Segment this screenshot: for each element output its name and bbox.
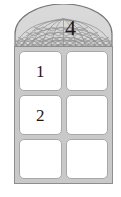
- window-frame: 1 2: [14, 46, 113, 184]
- pane-r1c1[interactable]: 1: [19, 51, 62, 91]
- pane-r3c1[interactable]: [19, 139, 62, 179]
- diagram-canvas: 4 1 2: [0, 0, 121, 197]
- pane-grid: 1 2: [19, 51, 108, 179]
- dome-region: 4: [14, 4, 113, 50]
- pane-r1c2[interactable]: [66, 51, 109, 91]
- window-figure: 4 1 2: [14, 4, 113, 184]
- pane-r2c1[interactable]: 2: [19, 95, 62, 135]
- pane-r2c2[interactable]: [66, 95, 109, 135]
- pane-r3c2[interactable]: [66, 139, 109, 179]
- geodesic-dome-icon: [14, 4, 113, 50]
- pane-label: 2: [36, 107, 45, 124]
- pane-label: 1: [36, 63, 45, 80]
